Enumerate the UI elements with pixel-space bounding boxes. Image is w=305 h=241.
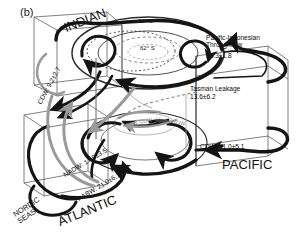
flux-label-tasman-name: Tasman Leakage: [190, 85, 240, 92]
basin-label-pacific: PACIFIC: [222, 158, 272, 173]
flux-label-tasman-value: 13.6±6.2: [190, 93, 216, 100]
flux-label-cdw-pacific: CDW: 11.0±5.1: [200, 143, 244, 150]
flux-label-throughflow-name: Pacific-Indonesian Throughflow: [206, 34, 260, 49]
figure-panel: (b) INDIAN PACIFIC ATLANTIC NORDIC SEAS …: [0, 0, 305, 241]
flux-label-throughflow-value: 13.3±1.8: [206, 52, 232, 59]
latitude-label-62s: 62° S: [140, 45, 155, 52]
latitude-label-32s: 32° S: [138, 18, 153, 25]
panel-letter: (b): [20, 6, 33, 18]
